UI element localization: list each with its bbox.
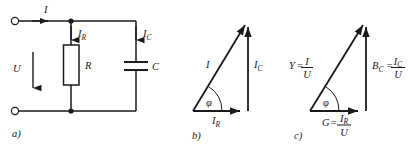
label-G-numerator: IR — [339, 113, 349, 126]
label-phasor-IR: IR — [211, 115, 221, 129]
terminal-bottom-left — [11, 107, 18, 114]
figure-container: I U IR R IC C a) — [0, 0, 411, 145]
label-resistor: R — [84, 60, 92, 71]
junction-node-top — [68, 18, 73, 23]
label-Y-numerator: I — [304, 56, 309, 67]
label-total-current: I — [43, 4, 48, 15]
label-G-equals: = — [330, 117, 337, 128]
label-Y-symbol: Y — [289, 60, 296, 71]
label-capacitor: C — [152, 61, 160, 72]
label-resistor-current: IR — [77, 28, 87, 42]
label-BC-numerator: IC — [393, 56, 404, 69]
label-phi-b: φ — [206, 97, 212, 108]
label-phasor-Y: Y = I U — [289, 56, 313, 81]
label-Y-denominator: U — [303, 69, 312, 80]
label-phasor-I: I — [205, 59, 210, 70]
current-phasor-triangle: φ I IC IR b) — [192, 25, 264, 142]
admittance-phasor-triangle: φ Y = I U BC = IC U G = IR U c) — [289, 25, 405, 142]
label-BC-denominator: U — [394, 69, 403, 80]
label-phi-c: φ — [323, 97, 329, 108]
label-BC-equals: = — [386, 60, 393, 71]
label-G-denominator: U — [340, 127, 349, 138]
caption-c: c) — [294, 130, 303, 142]
technical-figure: I U IR R IC C a) — [0, 0, 411, 145]
caption-b: b) — [192, 130, 201, 142]
caption-a: a) — [12, 128, 21, 140]
label-voltage: U — [13, 63, 22, 74]
terminal-top-left — [11, 17, 18, 24]
label-phasor-BC: BC = IC U — [372, 56, 405, 81]
resistor-symbol — [64, 45, 80, 85]
label-phasor-IC: IC — [253, 59, 264, 73]
label-capacitor-current: IC — [142, 28, 153, 42]
label-BC-symbol: BC — [372, 60, 384, 74]
label-phasor-G: G = IR U — [322, 113, 351, 138]
label-G-symbol: G — [322, 117, 330, 128]
circuit-diagram: I U IR R IC C a) — [11, 4, 160, 140]
junction-node-bottom — [68, 108, 73, 113]
